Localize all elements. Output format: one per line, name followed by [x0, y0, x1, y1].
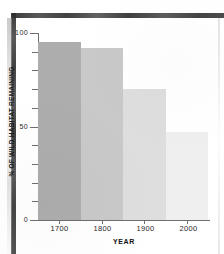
y-major-tick-100 — [30, 33, 38, 34]
bar-1700 — [38, 42, 81, 220]
y-minor-tick-10 — [32, 201, 38, 202]
x-tick-1900 — [144, 221, 145, 224]
y-minor-tick-80 — [32, 70, 38, 71]
chart-page: 100 50 0 % OF WILD HABITAT REMAINING 170… — [0, 0, 224, 254]
x-axis-line — [38, 220, 210, 221]
y-major-tick-50 — [30, 127, 38, 128]
y-minor-tick-90 — [32, 52, 38, 53]
x-axis-tick-group: 1700 1800 1900 2000 — [38, 224, 210, 236]
scan-border-top-artifact — [12, 13, 224, 18]
y-major-tick-0 — [30, 220, 38, 221]
x-tick-2000 — [187, 221, 188, 224]
y-minor-tick-60 — [32, 108, 38, 109]
x-tick-label-1800: 1800 — [81, 224, 124, 233]
y-minor-tick-40 — [32, 145, 38, 146]
x-tick-label-1900: 1900 — [124, 224, 167, 233]
x-tick-1700 — [59, 221, 60, 224]
y-tick-label-100: 100 — [2, 29, 28, 36]
x-tick-label-2000: 2000 — [167, 224, 210, 233]
y-tick-label-0: 0 — [2, 216, 28, 223]
x-axis-title: YEAR — [38, 238, 210, 245]
bar-1800 — [81, 48, 124, 220]
y-axis-title: % OF WILD HABITAT REMAINING — [8, 42, 15, 202]
scan-border-right-artifact — [218, 18, 220, 254]
x-tick-1800 — [102, 221, 103, 224]
bar-1900 — [123, 89, 166, 220]
y-minor-tick-30 — [32, 164, 38, 165]
y-tick-label-50: 50 — [2, 123, 28, 130]
bar-2000 — [166, 132, 209, 220]
y-minor-tick-70 — [32, 89, 38, 90]
y-minor-tick-20 — [32, 183, 38, 184]
plot-area — [38, 33, 208, 220]
x-tick-label-1700: 1700 — [38, 224, 81, 233]
